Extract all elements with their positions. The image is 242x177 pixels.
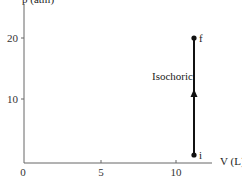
x-tick-label-5: 5 xyxy=(98,166,104,177)
y-axis-title: p (atm) xyxy=(22,0,54,6)
y-tick-label-10: 10 xyxy=(7,93,19,105)
x-axis-title: V (L) xyxy=(220,155,242,168)
point-f-label: f xyxy=(199,32,203,44)
x-tick-label-10: 10 xyxy=(171,166,183,177)
x-tick-label-0: 0 xyxy=(20,166,26,177)
point-f xyxy=(191,35,196,40)
y-tick-label-20: 20 xyxy=(7,32,19,44)
point-i-label: i xyxy=(199,149,202,161)
process-label: Isochoric xyxy=(152,70,193,82)
arrow-up-icon xyxy=(191,89,198,97)
pv-diagram: p (atm) 20 10 0 5 10 V (L) i f Isochoric xyxy=(0,0,242,177)
point-i xyxy=(191,152,196,157)
